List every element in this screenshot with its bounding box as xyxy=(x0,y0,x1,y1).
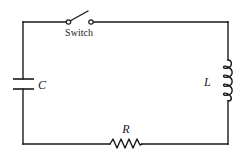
resistor-label: R xyxy=(121,122,130,136)
capacitor: C xyxy=(13,78,47,92)
switch-contact-right xyxy=(89,20,93,24)
capacitor-label: C xyxy=(38,78,47,92)
switch-label: Switch xyxy=(65,27,93,38)
resistor: R xyxy=(110,122,142,148)
rlc-circuit-diagram: Switch C L R xyxy=(0,0,251,157)
inductor-label: L xyxy=(203,75,211,89)
switch-blade xyxy=(70,11,88,21)
switch: Switch xyxy=(65,11,93,38)
inductor-coil xyxy=(224,60,233,101)
inductor: L xyxy=(203,60,232,101)
switch-contact-left xyxy=(66,20,70,24)
resistor-zigzag xyxy=(110,139,142,148)
